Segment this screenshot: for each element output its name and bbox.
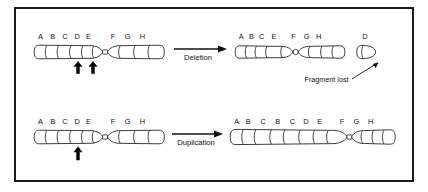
band-label: F <box>111 117 116 126</box>
row1-before-chromosome <box>34 45 164 59</box>
band-label: E <box>317 117 322 126</box>
band-label: B <box>249 32 254 41</box>
chromosome-diagram: A B C D E F G H Deletion <box>0 0 428 192</box>
band-label: A <box>234 117 239 126</box>
band-label: C <box>62 32 68 41</box>
band-label: C <box>261 117 267 126</box>
break-point-arrow <box>74 147 82 160</box>
band-label: F <box>291 32 296 41</box>
band-label: D <box>75 117 80 126</box>
band-label: H <box>368 117 373 126</box>
band-label: H <box>316 32 321 41</box>
deletion-label: Deletion <box>184 53 212 62</box>
band-label: C <box>259 32 265 41</box>
fragment-lost-label: Fragment lost <box>305 75 349 84</box>
band-label: A <box>38 117 43 126</box>
band-label: C <box>62 117 68 126</box>
band-label: F <box>111 32 116 41</box>
band-label: G <box>354 117 360 126</box>
break-point-arrow <box>74 62 82 74</box>
band-label: E <box>86 117 91 126</box>
band-label: B <box>246 117 251 126</box>
fragment-label: D <box>362 32 367 41</box>
row2-after-short-arm <box>230 129 347 144</box>
figure-root: A B C D E F G H Deletion <box>0 0 428 192</box>
deletion-process-arrow <box>174 45 227 52</box>
row2-before-chromosome <box>34 130 164 144</box>
band-label: A <box>239 32 244 41</box>
centromere <box>293 49 298 54</box>
row1-after-chromosome <box>235 46 345 58</box>
band-label: G <box>304 32 310 41</box>
band-label: E <box>272 32 277 41</box>
break-point-arrow <box>89 62 97 74</box>
fragment-lost-callout-arrow <box>352 62 379 79</box>
band-label: B <box>50 117 55 126</box>
row1-after-short-arm <box>235 46 293 58</box>
duplication-label: Duplication <box>177 138 215 147</box>
band-label: H <box>140 32 145 41</box>
band-label: E <box>86 32 91 41</box>
centromere <box>103 50 108 54</box>
band-label: B <box>275 117 280 126</box>
centromere <box>347 135 352 139</box>
duplication-process-arrow <box>172 130 223 137</box>
band-label: A <box>38 32 43 41</box>
fragment-body <box>357 45 376 58</box>
band-label: H <box>140 117 145 126</box>
centromere <box>103 135 108 139</box>
band-label: D <box>75 32 80 41</box>
row2-after-chromosome <box>230 129 395 144</box>
band-label: B <box>50 32 55 41</box>
row2-before-long-arm <box>107 130 164 144</box>
row1-before-long-arm <box>107 45 164 59</box>
band-label: D <box>303 117 308 126</box>
band-label: G <box>125 32 131 41</box>
band-label: C <box>290 117 296 126</box>
row2-after-long-arm <box>352 130 396 144</box>
lost-fragment <box>357 45 376 58</box>
band-label: F <box>340 117 345 126</box>
band-label: G <box>125 117 131 126</box>
